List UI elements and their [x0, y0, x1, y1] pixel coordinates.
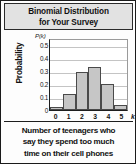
caption-line-3: time on their cell phones	[24, 148, 113, 160]
chart-title-box: Binomial Distribution for Your Survey	[4, 3, 133, 30]
x-axis-variable-label: k	[128, 112, 136, 121]
chart-caption: Number of teenagers who say they spend t…	[4, 121, 133, 162]
bar-slot	[88, 40, 101, 110]
bar	[101, 84, 114, 110]
y-tick-label: 0.1	[26, 95, 48, 101]
binomial-distribution-figure: Binomial Distribution for Your Survey Pr…	[0, 0, 136, 164]
bar	[88, 67, 101, 110]
y-axis-label: Probability	[14, 32, 24, 94]
bar	[114, 105, 127, 110]
chart-title-line-1: Binomial Distribution	[28, 6, 109, 17]
bar-slot	[76, 40, 89, 110]
bar	[63, 94, 76, 110]
y-tick-label: 0.4	[26, 56, 48, 62]
y-tick-label: 0	[26, 108, 48, 114]
caption-line-1: Number of teenagers who	[22, 125, 116, 137]
y-tick-label: 0.5	[26, 43, 48, 49]
bar-slot	[101, 40, 114, 110]
plot-axes	[49, 39, 128, 111]
bar-slot	[114, 40, 127, 110]
y-axis-tick-labels: 00.10.20.30.40.5	[26, 39, 48, 111]
bar	[50, 107, 63, 110]
y-tick-label: 0.3	[26, 69, 48, 75]
bar-slot	[63, 40, 76, 110]
plot-area: Probability P(k) 00.10.20.30.40.5 012345…	[4, 32, 133, 120]
bar-series	[50, 40, 127, 110]
caption-line-2: say they spend too much	[23, 136, 114, 148]
y-tick-label: 0.2	[26, 82, 48, 88]
probability-function-label: P(k)	[35, 32, 46, 39]
bar-slot	[50, 40, 63, 110]
bar	[76, 72, 89, 110]
chart-title-line-2: for Your Survey	[39, 17, 98, 28]
